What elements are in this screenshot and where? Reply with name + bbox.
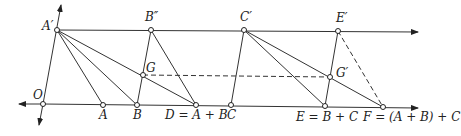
point-D (194, 103, 199, 108)
label-E: E = B + C (295, 110, 358, 124)
slanted-axis-down (39, 104, 43, 125)
label-O: O (33, 88, 43, 102)
segment-Cprime-C (231, 30, 244, 105)
point-A (101, 103, 106, 108)
point-Aprime (55, 28, 60, 33)
point-Cprime (242, 28, 247, 33)
point-Eprime (336, 29, 341, 34)
label-A: A (98, 108, 108, 122)
label-D: D = A + B (164, 108, 228, 122)
top-line (57, 30, 418, 32)
point-C (229, 103, 234, 108)
label-Eprime: E′ (335, 11, 348, 25)
label-C: C (227, 108, 236, 122)
point-Bdprime (149, 28, 154, 33)
point-E (323, 104, 328, 109)
point-Gprime (328, 75, 333, 80)
point-O (41, 102, 46, 107)
segment-Aprime-D (57, 30, 196, 105)
label-Cprime: C′ (240, 10, 252, 24)
label-Aprime: A′ (41, 19, 54, 33)
label-G: G (146, 61, 156, 75)
point-B (135, 103, 140, 108)
vector-addition-diagram: A′ B″ C′ E′ G G′ O A B D = A + B C E = B… (0, 0, 461, 136)
diagram-canvas: A′ B″ C′ E′ G G′ O A B D = A + B C E = B… (0, 0, 461, 136)
segment-Bdprime-D (151, 30, 196, 105)
point-G (141, 73, 146, 78)
point-F (381, 105, 386, 110)
segment-Aprime-B (57, 30, 137, 105)
segment-Aprime-A (57, 30, 103, 105)
label-Gprime: G′ (336, 66, 349, 80)
label-B: B (132, 108, 142, 122)
label-F: F = (A + B) + C (362, 110, 460, 124)
label-Bdprime: B″ (144, 10, 159, 24)
